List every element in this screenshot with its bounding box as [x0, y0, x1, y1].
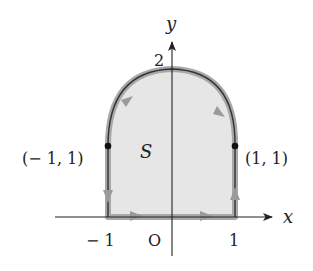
origin-label: O: [148, 231, 161, 250]
point-label-1-1: (1, 1): [245, 149, 288, 168]
diagram-canvas: y x 2 − 1 O 1 S (− 1, 1) (1, 1): [0, 0, 313, 271]
point-label-neg1-1: (− 1, 1): [22, 149, 84, 168]
y-tick-2: 2: [154, 51, 164, 70]
point-1-1: [232, 143, 239, 150]
point-neg1-1: [105, 143, 112, 150]
x-tick-1: 1: [229, 231, 239, 250]
x-axis-label: x: [283, 206, 293, 227]
y-axis-label: y: [165, 13, 177, 34]
region-label: S: [140, 141, 152, 162]
x-tick-neg1: − 1: [86, 231, 115, 250]
